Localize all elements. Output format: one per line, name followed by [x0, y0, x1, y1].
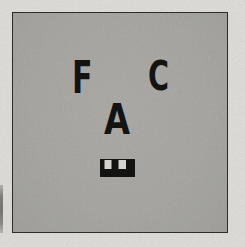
gray-card	[12, 12, 228, 233]
scanned-figure-photo: F C A	[0, 0, 245, 247]
scan-edge-artifact	[0, 185, 3, 233]
